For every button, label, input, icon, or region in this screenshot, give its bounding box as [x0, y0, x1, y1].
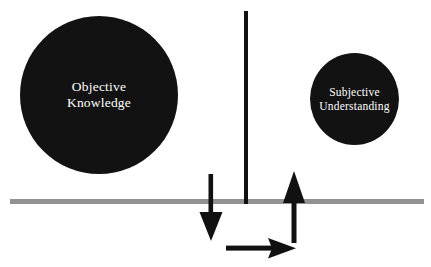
node-label-line2: Understanding [313, 99, 395, 113]
diagram-canvas: Objective Knowledge Subjective Understan… [0, 0, 431, 267]
node-subjective-understanding[interactable]: Subjective Understanding [310, 53, 399, 145]
node-label-line2: Knowledge [61, 95, 137, 111]
vertical-divider-bar [244, 11, 248, 204]
node-objective-knowledge-label: Objective Knowledge [61, 79, 137, 112]
arrow-up-icon [283, 171, 305, 243]
node-label-line1: Objective [61, 79, 137, 95]
horizontal-boundary-line [10, 199, 424, 204]
node-subjective-understanding-label: Subjective Understanding [313, 85, 395, 113]
arrow-down-icon [200, 174, 223, 241]
node-objective-knowledge[interactable]: Objective Knowledge [20, 16, 178, 174]
node-label-line1: Subjective [313, 85, 395, 99]
arrow-right-icon [226, 238, 296, 259]
